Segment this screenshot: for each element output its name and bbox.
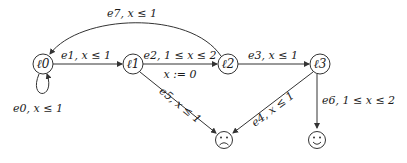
edge-e0: e0, x ≤ 1 [13, 74, 63, 115]
location-l2-label: ℓ2 [222, 57, 235, 71]
edge-e1-label: e1, x ≤ 1 [61, 49, 111, 62]
location-l2: ℓ2 [218, 54, 238, 74]
edge-e4-label: e4, x ≤ 1 [249, 89, 297, 129]
edge-e5: e5, x ≤ 1 [140, 72, 216, 133]
sad-face-icon [216, 132, 233, 149]
location-l3-label: ℓ3 [314, 57, 327, 71]
edge-e1: e1, x ≤ 1 [53, 49, 122, 64]
edge-e3-label: e3, x ≤ 1 [248, 49, 298, 62]
location-l3: ℓ3 [310, 54, 330, 74]
edge-e2: e2, 1 ≤ x ≤ 2 x := 0 [143, 49, 217, 81]
edge-e6: e6, 1 ≤ x ≤ 2 [317, 74, 395, 128]
location-l0: ℓ0 [33, 54, 53, 74]
edge-e2-reset: x := 0 [163, 68, 196, 81]
edge-e0-label: e0, x ≤ 1 [13, 102, 63, 115]
edge-e5-label: e5, x ≤ 1 [157, 85, 204, 127]
edge-e4: e4, x ≤ 1 [233, 72, 313, 133]
happy-face-icon [309, 132, 326, 149]
edge-e7-label: e7, x ≤ 1 [107, 7, 157, 20]
automaton-diagram: e7, x ≤ 1 e0, x ≤ 1 e1, x ≤ 1 e2, 1 ≤ x … [0, 0, 407, 163]
location-l0-label: ℓ0 [37, 57, 50, 71]
edge-e3: e3, x ≤ 1 [238, 49, 309, 64]
location-l1: ℓ1 [123, 54, 143, 74]
location-l1-label: ℓ1 [127, 57, 140, 71]
edge-e2-label: e2, 1 ≤ x ≤ 2 [143, 49, 216, 62]
edge-e6-label: e6, 1 ≤ x ≤ 2 [322, 94, 395, 107]
